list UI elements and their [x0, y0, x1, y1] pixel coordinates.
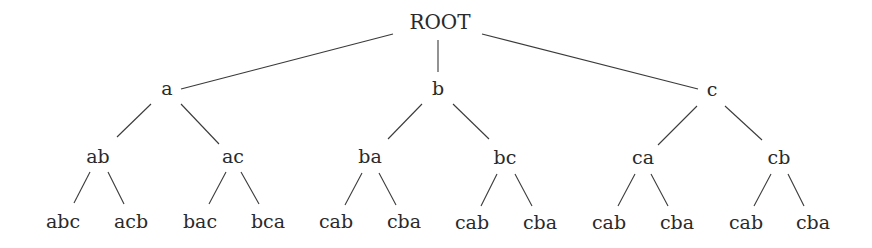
- tree-edge-n3-n9: [725, 106, 762, 140]
- tree-edge-n6-n15: [379, 173, 396, 205]
- tree-node: ab: [86, 145, 110, 167]
- tree-node: cb: [768, 146, 791, 168]
- tree-edge-n1-n4: [117, 104, 151, 137]
- tree-edge-n7-n17: [515, 174, 532, 206]
- tree-node: ba: [358, 145, 382, 167]
- tree-edge-n2-n6: [388, 104, 422, 139]
- tree-edge-n4-n11: [108, 172, 124, 204]
- tree-node: bca: [251, 210, 285, 232]
- tree-edge-n9-n21: [788, 174, 804, 206]
- tree-node: bac: [183, 210, 217, 232]
- tree-node: acb: [114, 210, 148, 232]
- tree-node: bc: [494, 146, 517, 168]
- tree-node: abc: [46, 210, 80, 232]
- tree-node: cba: [796, 211, 830, 233]
- tree-node: cba: [660, 211, 694, 233]
- tree-edge-n0-n1: [181, 34, 393, 89]
- tree-edge-n5-n12: [209, 172, 226, 204]
- tree-node: ca: [632, 146, 654, 168]
- tree-root-node: ROOT: [409, 10, 471, 34]
- tree-edge-n5-n13: [241, 172, 259, 204]
- tree-edge-n0-n3: [482, 34, 698, 89]
- tree-node: cab: [319, 210, 353, 232]
- tree-edge-n4-n10: [74, 172, 90, 203]
- tree-edges: [74, 34, 804, 206]
- tree-node: c: [707, 78, 718, 100]
- tree-node: a: [161, 77, 172, 99]
- tree-edge-n9-n20: [754, 174, 771, 206]
- tree-edge-n7-n16: [481, 174, 497, 206]
- tree-node: cba: [523, 211, 557, 233]
- tree-edge-n8-n18: [618, 174, 635, 206]
- tree-node: ac: [222, 145, 244, 167]
- tree-node: b: [432, 77, 444, 99]
- tree-edge-n2-n7: [453, 104, 489, 139]
- tree-edge-n6-n14: [345, 173, 362, 205]
- permutation-tree-diagram: ROOTabcabacbabccacbabcacbbacbcacabcbacab…: [0, 0, 872, 248]
- tree-node: cab: [592, 211, 626, 233]
- tree-edge-n1-n5: [181, 104, 219, 144]
- tree-edge-n3-n8: [658, 106, 697, 145]
- tree-edge-n8-n19: [651, 174, 668, 206]
- tree-node: cab: [455, 211, 489, 233]
- tree-node: cab: [729, 211, 763, 233]
- tree-node: cba: [387, 210, 421, 232]
